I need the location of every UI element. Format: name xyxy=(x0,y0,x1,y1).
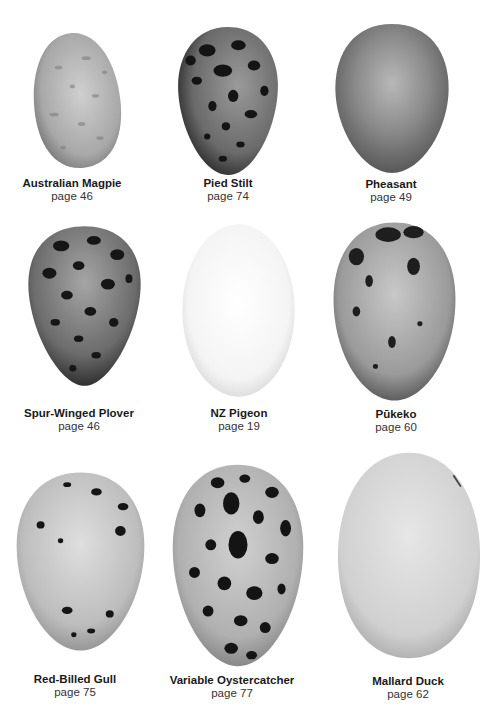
caption-pheasant: Pheasant page 49 xyxy=(306,178,476,204)
egg-image-red-billed-gull xyxy=(14,470,147,653)
page-reference: page 49 xyxy=(306,191,476,204)
species-name: Pūkeko xyxy=(311,408,481,421)
egg-image-pukeko xyxy=(331,220,458,403)
page-reference: page 46 xyxy=(0,190,157,203)
egg-image-variable-oystercatcher xyxy=(170,462,306,669)
caption-australian-magpie: Australian Magpie page 46 xyxy=(0,177,157,203)
page-reference: page 62 xyxy=(323,688,491,701)
egg-image-spur-winged-plover xyxy=(26,224,143,388)
caption-pied-stilt: Pied Stilt page 74 xyxy=(143,177,313,203)
page-reference: page 60 xyxy=(311,421,481,434)
page-reference: page 46 xyxy=(0,420,164,433)
page-reference: page 77 xyxy=(147,687,317,700)
caption-spur-winged-plover: Spur-Winged Plover page 46 xyxy=(0,407,164,433)
species-name: Red-Billed Gull xyxy=(0,673,160,686)
egg-image-australian-magpie xyxy=(31,30,123,171)
species-name: NZ Pigeon xyxy=(154,407,324,420)
caption-variable-oystercatcher: Variable Oystercatcher page 77 xyxy=(147,674,317,700)
egg-image-pied-stilt xyxy=(176,25,280,177)
species-name: Pheasant xyxy=(306,178,476,191)
species-name: Australian Magpie xyxy=(0,177,157,190)
species-name: Pied Stilt xyxy=(143,177,313,190)
species-name: Spur-Winged Plover xyxy=(0,407,164,420)
caption-red-billed-gull: Red-Billed Gull page 75 xyxy=(0,673,160,699)
page-reference: page 75 xyxy=(0,686,160,699)
page-reference: page 19 xyxy=(154,420,324,433)
caption-mallard-duck: Mallard Duck page 62 xyxy=(323,675,491,701)
species-name: Variable Oystercatcher xyxy=(147,674,317,687)
page-reference: page 74 xyxy=(143,190,313,203)
egg-image-pheasant xyxy=(333,22,451,175)
caption-pukeko: Pūkeko page 60 xyxy=(311,408,481,434)
egg-image-mallard-duck xyxy=(335,450,483,661)
species-name: Mallard Duck xyxy=(323,675,491,688)
caption-nz-pigeon: NZ Pigeon page 19 xyxy=(154,407,324,433)
egg-image-nz-pigeon xyxy=(180,222,297,399)
